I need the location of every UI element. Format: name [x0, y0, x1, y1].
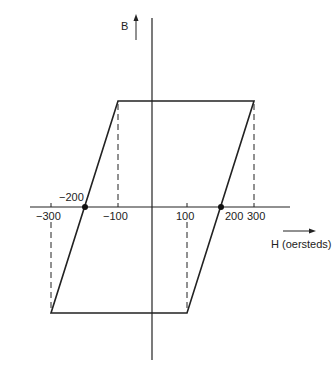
tick-label-m300: −300 — [36, 210, 61, 222]
tick-label-m200: −200 — [59, 191, 84, 203]
tick-label-300: 300 — [247, 210, 265, 222]
tick-label-m100: −100 — [103, 210, 128, 222]
tick-label-200: 200 — [225, 210, 243, 222]
h-axis-label: H (oersteds) — [271, 238, 332, 250]
b-axis-label: B — [121, 20, 128, 32]
coercive-point-positive — [218, 204, 224, 210]
hysteresis-diagram — [0, 0, 336, 371]
coercive-point-negative — [82, 204, 88, 210]
tick-label-100: 100 — [176, 210, 194, 222]
